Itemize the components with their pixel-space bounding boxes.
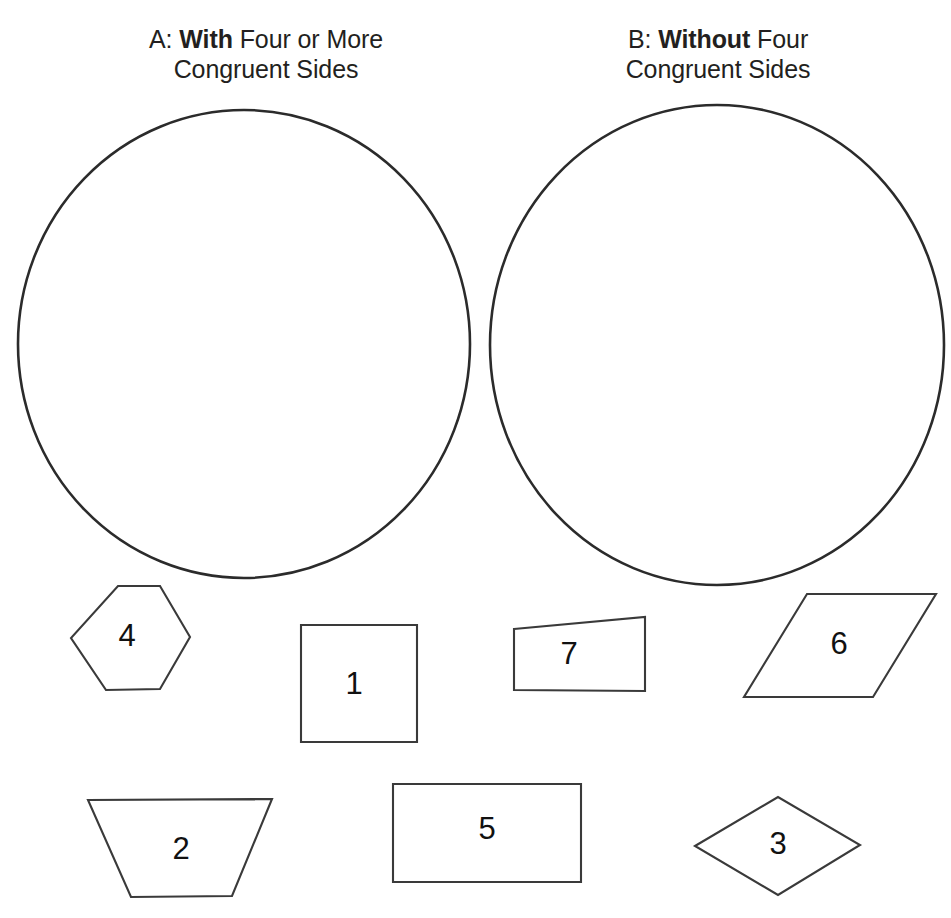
sorting-circle-a[interactable] — [18, 110, 470, 578]
shape-number-label: 2 — [172, 831, 189, 866]
shape-tile-quadrilateral-7[interactable]: 7 — [514, 617, 645, 691]
shape-number-label: 5 — [478, 811, 495, 846]
shape-number-label: 6 — [830, 626, 847, 661]
shapes-layer: 4 1 7 6 2 5 3 — [0, 0, 951, 918]
shape-tile-rectangle-5[interactable]: 5 — [393, 784, 581, 882]
worksheet-canvas: A: With Four or More Congruent Sides B: … — [0, 0, 951, 918]
shape-tile-square-1[interactable]: 1 — [301, 625, 417, 742]
shape-number-label: 7 — [560, 636, 577, 671]
shape-number-label: 1 — [345, 666, 362, 701]
shape-tile-rhombus-3[interactable]: 3 — [695, 797, 860, 895]
shape-tile-trapezoid-2[interactable]: 2 — [88, 799, 272, 897]
shape-number-label: 4 — [118, 618, 135, 653]
shape-tile-hexagon-4[interactable]: 4 — [71, 586, 190, 690]
quadrilateral-outline — [514, 617, 645, 691]
shape-tile-parallelogram-6[interactable]: 6 — [744, 594, 936, 697]
shape-number-label: 3 — [769, 826, 786, 861]
sorting-circle-b[interactable] — [490, 105, 944, 585]
